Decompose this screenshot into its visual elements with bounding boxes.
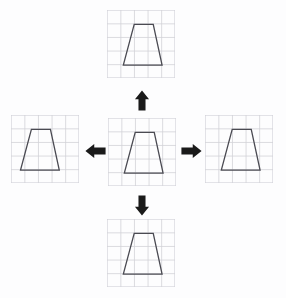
trapezoid-shape — [124, 132, 163, 173]
arrow-left-icon — [85, 143, 106, 159]
right-grid-panel — [205, 115, 273, 183]
grid-lines — [108, 118, 176, 186]
bottom-grid-panel — [107, 219, 175, 287]
center-grid-panel — [108, 118, 176, 186]
arrow-glyph — [85, 144, 105, 158]
diagram-canvas — [0, 0, 286, 298]
left-grid-panel — [11, 115, 79, 183]
arrow-down-icon — [134, 195, 150, 216]
trapezoid-shape — [221, 129, 260, 170]
trapezoid-shape — [123, 24, 162, 65]
arrow-right-icon — [181, 143, 202, 159]
arrow-up-icon — [134, 90, 150, 111]
grid-lines — [11, 115, 79, 183]
grid-lines — [107, 10, 175, 78]
arrow-glyph — [181, 144, 201, 158]
top-grid-panel — [107, 10, 175, 78]
trapezoid-shape — [123, 233, 162, 274]
arrow-glyph — [135, 90, 149, 110]
grid-lines — [205, 115, 273, 183]
arrow-glyph — [135, 195, 149, 215]
grid-lines — [107, 219, 175, 287]
trapezoid-shape — [21, 129, 60, 170]
